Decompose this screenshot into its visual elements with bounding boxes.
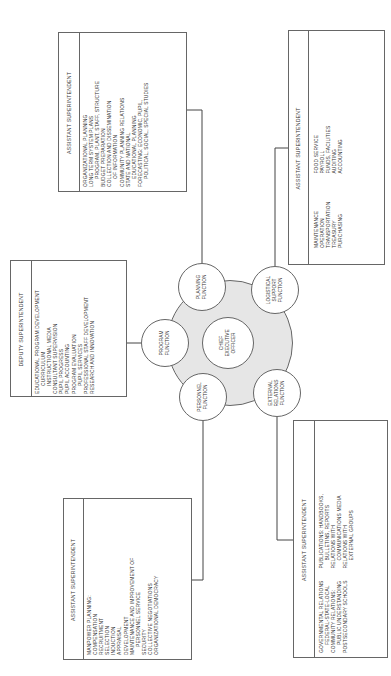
personnel-function-circle[interactable]: PERSONNELFUNCTION — [179, 373, 227, 421]
personnel-connector — [192, 421, 203, 580]
ceo-circle[interactable]: CHIEFEXECUTIVEOFFICER — [202, 317, 254, 369]
logistical-function-label: LOGISTICALSUPPORTFUNCTION — [266, 276, 284, 304]
program-function-label: PROGRAMFUNCTION — [159, 331, 171, 356]
logistical-function-circle[interactable]: LOGISTICALSUPPORTFUNCTION — [251, 266, 299, 314]
external-function-label: EXTERNALRELATIONSFUNCTION — [268, 380, 286, 407]
external-function-circle[interactable]: EXTERNALRELATIONSFUNCTION — [253, 369, 301, 417]
planning-box-items: ORGANIZATIONAL PLANNING LONG TERM SYSTEM… — [79, 33, 150, 193]
planning-function-circle[interactable]: PLANNINGFUNCTION — [178, 263, 226, 311]
logistical-box-items: MAINTENANCEOPERATIONTRANSPORTATIONTREASU… — [308, 31, 344, 266]
planning-box-title: ASSISTANT SUPERINTENDENT — [59, 33, 79, 193]
logistical-connector — [275, 148, 288, 266]
program-box-items: EDUCATIONAL PROGRAM DEVELOPMENT CURRICUL… — [31, 261, 96, 398]
external-connector — [277, 417, 293, 540]
program-box-title: DEPUTY SUPERINTENDENT — [11, 261, 31, 398]
personnel-box-items: MANPOWER PLANNING: COMPENSATION RECRUITM… — [83, 499, 160, 661]
planning-function-label: PLANNINGFUNCTION — [196, 275, 208, 300]
personnel-box-title: ASSISTANT SUPERINTENDENT — [64, 499, 83, 661]
planning-connector — [187, 110, 202, 263]
program-function-circle[interactable]: PROGRAMFUNCTION — [141, 319, 189, 367]
logistical-box-title: ASSISTANT SUPERINTENDENT — [289, 31, 308, 266]
external-box-items: GOVERNMENTAL RELATIONS FEDERAL-STATE-LOC… — [314, 421, 356, 659]
logistical-box: ASSISTANT SUPERINTENDENT MAINTENANCEOPER… — [288, 30, 385, 265]
program-box: DEPUTY SUPERINTENDENT EDUCATIONAL PROGRA… — [10, 260, 127, 397]
external-box-title: ASSISTANT SUPERINTENDENT — [294, 421, 314, 659]
personnel-box: ASSISTANT SUPERINTENDENT MANPOWER PLANNI… — [63, 498, 192, 660]
external-box: ASSISTANT SUPERINTENDENT GOVERNMENTAL RE… — [293, 420, 388, 658]
ceo-label: CHIEFEXECUTIVEOFFICER — [219, 329, 237, 356]
planning-box: ASSISTANT SUPERINTENDENT ORGANIZATIONAL … — [58, 32, 187, 192]
personnel-function-label: PERSONNELFUNCTION — [197, 382, 209, 412]
